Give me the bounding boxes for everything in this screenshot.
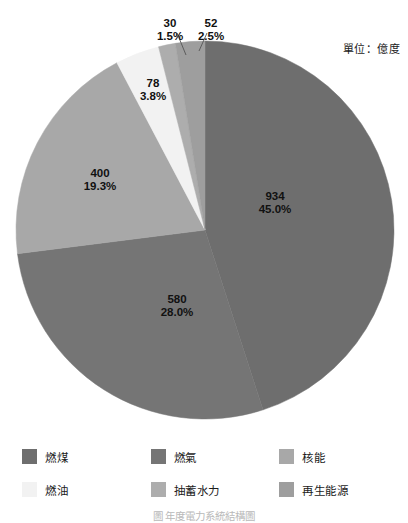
slice-value-label: 30 (164, 17, 177, 29)
legend-swatch-icon (279, 449, 294, 464)
legend-item-label: 抽蓄水力 (174, 482, 220, 498)
figure-caption: 圖 年度電力系統結構圖 (0, 508, 408, 523)
slice-percent-label: 1.5% (157, 30, 183, 42)
legend-swatch-icon (22, 482, 37, 497)
slice-percent-label: 3.8% (140, 90, 166, 102)
legend-item[interactable]: 核能 (279, 449, 408, 465)
slice-percent-label: 45.0% (259, 203, 292, 215)
slice-value-label: 934 (265, 190, 285, 202)
legend-swatch-icon (279, 482, 294, 497)
chart-legend: 燃煤燃氣核能燃油抽蓄水力再生能源 (0, 440, 408, 506)
legend-swatch-icon (151, 482, 166, 497)
legend-item-label: 核能 (302, 449, 325, 465)
slice-value-label: 400 (90, 167, 109, 179)
legend-item[interactable]: 燃油 (22, 482, 151, 498)
legend-item[interactable]: 燃煤 (22, 449, 151, 465)
legend-item-label: 燃油 (45, 482, 68, 498)
slice-value-label: 580 (167, 293, 186, 305)
legend-item-label: 燃氣 (174, 449, 197, 465)
slice-percent-label: 28.0% (161, 306, 194, 318)
slice-percent-label: 19.3% (84, 180, 117, 192)
legend-item[interactable]: 再生能源 (279, 482, 408, 498)
pie-chart-canvas: 93445.0%58028.0%40019.3%783.8%301.5%522.… (0, 0, 408, 440)
legend-item-label: 燃煤 (45, 449, 68, 465)
pie-slice-group (16, 41, 394, 419)
legend-item[interactable]: 抽蓄水力 (151, 482, 280, 498)
slice-value-label: 52 (205, 17, 218, 29)
unit-annotation: 單位：億度 (343, 40, 400, 56)
legend-swatch-icon (22, 449, 37, 464)
legend-swatch-icon (151, 449, 166, 464)
slice-percent-label: 2.5% (198, 30, 224, 42)
legend-item[interactable]: 燃氣 (151, 449, 280, 465)
slice-value-label: 78 (147, 77, 160, 89)
legend-item-label: 再生能源 (302, 482, 348, 498)
